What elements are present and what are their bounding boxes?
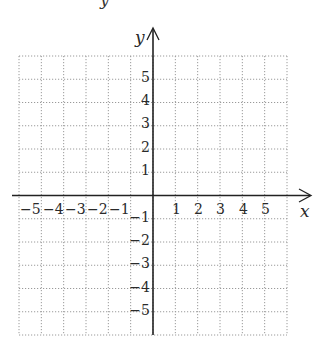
x-tick-label: 5: [261, 201, 270, 217]
x-tick-label: −1: [109, 201, 130, 217]
y-tick-label: −4: [129, 279, 150, 295]
x-tick-label: 3: [216, 201, 225, 217]
y-tick-label: −1: [129, 209, 150, 225]
x-tick-label: 4: [239, 201, 248, 217]
x-axis-label: x: [300, 201, 310, 221]
y-tick-label: −2: [129, 232, 150, 248]
x-tick-label: 1: [172, 201, 181, 217]
y-tick-label: 3: [141, 115, 150, 131]
y-tick-label: 4: [141, 92, 150, 108]
y-tick-label: 2: [141, 139, 150, 155]
y-axis-label: y: [134, 27, 145, 47]
y-tick-label: −5: [129, 302, 150, 318]
y-tick-label: −3: [129, 255, 150, 271]
y-tick-label: 5: [141, 69, 150, 85]
x-tick-label: 2: [194, 201, 203, 217]
x-tick-label: −4: [43, 201, 64, 217]
x-tick-label: −3: [65, 201, 86, 217]
y-tick-label: 1: [141, 162, 150, 178]
x-tick-label: −2: [87, 201, 108, 217]
coordinate-plane: x y −5 −4 −3 −2 −1 1 2 3 4 5 5 4 3 2 1 −…: [0, 0, 330, 361]
x-tick-label: −5: [20, 201, 41, 217]
